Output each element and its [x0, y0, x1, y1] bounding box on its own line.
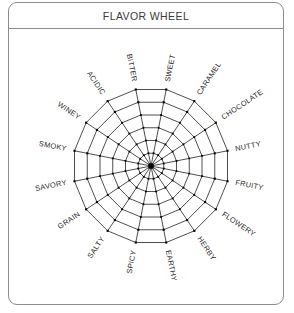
sector-label-bitter: BITTER — [125, 53, 139, 82]
vertex-dot — [193, 230, 195, 232]
vertex-dot — [172, 198, 174, 200]
vertex-dot — [161, 172, 163, 174]
vertex-dot — [155, 140, 157, 142]
vertex-dot — [96, 129, 98, 131]
sector-label-chocolate: CHOCOLATE — [220, 87, 265, 121]
vertex-dot — [172, 133, 174, 135]
vertex-dot — [165, 241, 167, 243]
vertex-dot — [139, 158, 141, 160]
vertex-dot — [204, 201, 206, 203]
flavor-wheel-diagram: BITTERSWEETCARAMELCHOCOLATENUTTYFRUITYFL… — [9, 29, 283, 305]
vertex-dot — [165, 143, 167, 145]
card-title-bar: FLAVOR WHEEL — [9, 3, 283, 29]
vertex-dot — [128, 198, 130, 200]
vertex-dot — [193, 136, 195, 138]
vertex-dot — [125, 170, 127, 172]
sector-label-herby: HERBY — [195, 235, 217, 262]
vertex-dot — [118, 187, 120, 189]
vertex-dot — [215, 208, 217, 210]
vertex-dot — [143, 176, 145, 178]
vertex-dot — [201, 155, 203, 157]
vertex-dot — [188, 173, 190, 175]
vertex-dot — [136, 187, 138, 189]
sector-label-fruity: FRUITY — [235, 178, 265, 192]
vertex-dot — [148, 178, 150, 180]
vertex-dot — [121, 208, 123, 210]
vertex-dot — [145, 140, 147, 142]
vertex-dot — [153, 178, 155, 180]
vertex-dot — [112, 173, 114, 175]
vertex-dot — [157, 176, 159, 178]
vertex-dot — [99, 155, 101, 157]
vertex-dot — [121, 122, 123, 124]
hub-center-dot — [148, 163, 153, 168]
vertex-dot — [107, 100, 109, 102]
vertex-dot — [163, 229, 165, 231]
vertex-dot — [107, 230, 109, 232]
vertex-dot — [107, 136, 109, 138]
vertex-dot — [142, 127, 144, 129]
sector-label-salty: SALTY — [85, 235, 106, 260]
vertex-dot — [179, 208, 181, 210]
vertex-dot — [139, 172, 141, 174]
vertex-dot — [99, 175, 101, 177]
sector-label-acidic: ACIDIC — [85, 69, 108, 97]
page-title: FLAVOR WHEEL — [103, 10, 189, 22]
sector-label-grain: GRAIN — [56, 210, 82, 231]
vertex-dot — [136, 143, 138, 145]
vertex-dot — [128, 151, 130, 153]
sector-label-sweet: SWEET — [163, 53, 177, 82]
vertex-dot — [193, 194, 195, 196]
vertex-dot — [215, 122, 217, 124]
sector-label-savory: SAVORY — [34, 178, 67, 193]
sector-label-smoky: SMOKY — [38, 139, 67, 153]
vertex-dot — [96, 201, 98, 203]
vertex-dot — [135, 241, 137, 243]
vertex-dot — [161, 158, 163, 160]
vertex-dot — [107, 194, 109, 196]
vertex-dot — [114, 111, 116, 113]
sector-label-flowery: FLOWERY — [220, 210, 257, 239]
vertex-dot — [145, 191, 147, 193]
vertex-dot — [128, 133, 130, 135]
vertex-dot — [188, 157, 190, 159]
vertex-dot — [73, 180, 75, 182]
vertex-dot — [114, 219, 116, 221]
vertex-dot — [85, 122, 87, 124]
vertex-dot — [140, 114, 142, 116]
flavor-wheel-card: FLAVOR WHEEL BITTERSWEETCARAMELCHOCOLATE… — [8, 2, 284, 305]
vertex-dot — [204, 129, 206, 131]
vertex-dot — [201, 175, 203, 177]
vertex-dot — [179, 122, 181, 124]
vertex-dot — [160, 216, 162, 218]
sector-label-winey: WINEY — [56, 100, 82, 122]
vertex-dot — [73, 150, 75, 152]
vertex-dot — [158, 203, 160, 205]
vertex-dot — [226, 150, 228, 152]
vertex-dot — [85, 208, 87, 210]
vertex-dot — [183, 187, 185, 189]
vertex-dot — [128, 180, 130, 182]
vertex-dot — [183, 143, 185, 145]
vertex-dot — [172, 151, 174, 153]
vertex-dot — [186, 111, 188, 113]
vertex-dot — [165, 187, 167, 189]
vertex-dot — [135, 88, 137, 90]
vertex-dot — [163, 168, 165, 170]
vertex-dot — [112, 157, 114, 159]
vertex-dot — [176, 170, 178, 172]
flavor-wheel-svg: BITTERSWEETCARAMELCHOCOLATENUTTYFRUITYFL… — [9, 29, 285, 305]
vertex-dot — [86, 178, 88, 180]
vertex-dot — [193, 100, 195, 102]
vertex-dot — [137, 168, 139, 170]
vertex-dot — [214, 178, 216, 180]
vertex-dot — [157, 154, 159, 156]
vertex-dot — [125, 160, 127, 162]
vertex-dot — [163, 163, 165, 165]
vertex-dot — [163, 101, 165, 103]
vertex-dot — [176, 160, 178, 162]
vertex-dot — [137, 163, 139, 165]
sector-label-earthy: EARTHY — [164, 249, 179, 282]
vertex-dot — [186, 219, 188, 221]
vertex-dot — [143, 154, 145, 156]
